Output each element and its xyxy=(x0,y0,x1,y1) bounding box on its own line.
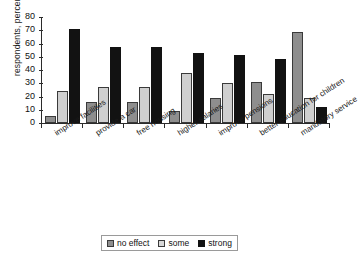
bar xyxy=(69,29,80,123)
y-axis-tick-label: 40 xyxy=(25,64,35,74)
y-axis-tick-label: 50 xyxy=(25,51,35,61)
legend-label: no effect xyxy=(117,238,149,248)
x-axis-tick xyxy=(329,123,330,128)
bar-group xyxy=(169,17,204,123)
x-axis-tick xyxy=(288,123,289,128)
x-axis-tick xyxy=(206,123,207,128)
legend-swatch xyxy=(198,240,205,247)
x-axis-tick xyxy=(247,123,248,128)
x-axis-tick xyxy=(164,123,165,128)
bar xyxy=(57,91,68,123)
y-axis-tick-label: 10 xyxy=(25,104,35,114)
legend-label: some xyxy=(168,238,189,248)
bar xyxy=(110,47,121,123)
bar-group xyxy=(45,17,80,123)
legend-swatch xyxy=(107,240,114,247)
legend-label: strong xyxy=(208,238,232,248)
y-axis-title: respondents, percent xyxy=(12,0,22,90)
legend-item[interactable]: some xyxy=(158,238,189,248)
y-axis-tick: 40 xyxy=(39,70,43,71)
bar xyxy=(181,73,192,123)
x-axis-tick xyxy=(41,123,42,128)
y-axis-tick: 60 xyxy=(39,44,43,45)
y-axis-tick-label: 70 xyxy=(25,24,35,34)
y-axis-tick: 30 xyxy=(39,83,43,84)
legend-item[interactable]: no effect xyxy=(107,238,149,248)
plot-area: 80706050403020100 xyxy=(41,17,329,124)
legend-item[interactable]: strong xyxy=(198,238,232,248)
y-axis-tick: 20 xyxy=(39,97,43,98)
y-axis-tick: 50 xyxy=(39,57,43,58)
bar xyxy=(139,87,150,123)
y-axis-tick: 70 xyxy=(39,30,43,31)
y-axis-tick-label: 60 xyxy=(25,38,35,48)
x-axis-tick xyxy=(82,123,83,128)
bar xyxy=(222,83,233,123)
chart-legend: no effectsomestrong xyxy=(101,235,238,251)
y-axis-tick-label: 20 xyxy=(25,91,35,101)
x-axis-tick xyxy=(123,123,124,128)
y-axis-tick: 10 xyxy=(39,110,43,111)
y-axis-tick-label: 80 xyxy=(25,11,35,21)
bar xyxy=(45,116,56,123)
y-axis-tick-label: 0 xyxy=(30,117,35,127)
y-axis-tick-label: 30 xyxy=(25,77,35,87)
y-axis-tick: 80 xyxy=(39,17,43,18)
legend-swatch xyxy=(158,240,165,247)
